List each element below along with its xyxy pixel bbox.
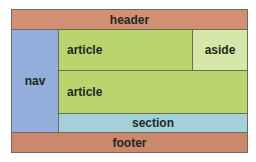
article-region-2: article — [58, 70, 248, 114]
nav-region: nav — [11, 29, 59, 133]
aside-region: aside — [192, 29, 248, 71]
article-label-1: article — [67, 43, 102, 57]
section-region: section — [58, 113, 248, 133]
header-label: header — [110, 13, 149, 27]
footer-label: footer — [113, 136, 147, 150]
nav-label: nav — [25, 74, 46, 88]
section-label: section — [132, 116, 174, 130]
article-region-1: article — [58, 29, 193, 71]
footer-region: footer — [11, 132, 248, 153]
header-region: header — [11, 9, 248, 30]
article-label-2: article — [67, 85, 102, 99]
aside-label: aside — [205, 43, 236, 57]
